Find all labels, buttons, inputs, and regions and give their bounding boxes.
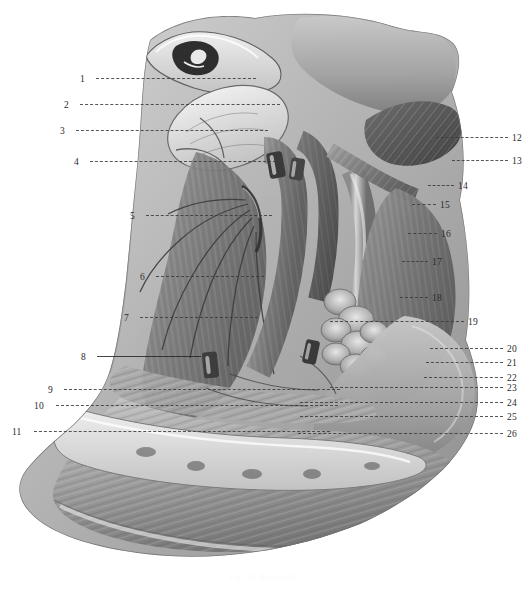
leader-line-15 bbox=[412, 204, 436, 205]
leader-line-8 bbox=[97, 356, 201, 357]
leader-line-10 bbox=[56, 405, 338, 406]
label-number-26: 26 bbox=[507, 429, 517, 439]
leader-line-5 bbox=[146, 215, 272, 216]
label-number-18: 18 bbox=[432, 293, 442, 303]
label-number-7: 7 bbox=[124, 313, 129, 323]
label-number-1: 1 bbox=[80, 74, 85, 84]
label-number-15: 15 bbox=[440, 200, 450, 210]
label-number-4: 4 bbox=[74, 157, 79, 167]
label-number-9: 9 bbox=[48, 385, 53, 395]
label-number-23: 23 bbox=[507, 383, 517, 393]
leader-line-3 bbox=[76, 130, 268, 131]
leader-line-23 bbox=[330, 387, 503, 388]
label-number-21: 21 bbox=[507, 358, 517, 368]
leader-line-25 bbox=[300, 416, 503, 417]
plate-caption: Fig. 72. Regio colli bbox=[0, 573, 529, 582]
leader-line-21 bbox=[426, 362, 503, 363]
label-number-25: 25 bbox=[507, 412, 517, 422]
leader-line-6 bbox=[156, 276, 264, 277]
leader-line-12 bbox=[436, 137, 508, 138]
label-number-11: 11 bbox=[12, 427, 22, 437]
leader-line-16 bbox=[408, 233, 437, 234]
leader-line-11 bbox=[34, 431, 330, 432]
label-number-20: 20 bbox=[507, 344, 517, 354]
leader-line-7 bbox=[140, 317, 258, 318]
leader-line-14 bbox=[428, 185, 454, 186]
label-number-17: 17 bbox=[432, 257, 442, 267]
label-number-14: 14 bbox=[458, 181, 468, 191]
label-number-16: 16 bbox=[441, 229, 451, 239]
label-number-8: 8 bbox=[81, 352, 86, 362]
label-number-6: 6 bbox=[140, 272, 145, 282]
leader-line-20 bbox=[430, 348, 503, 349]
leader-line-13 bbox=[452, 160, 508, 161]
leader-line-4 bbox=[90, 161, 276, 162]
leader-line-19 bbox=[330, 321, 464, 322]
label-number-10: 10 bbox=[34, 401, 44, 411]
leader-line-18 bbox=[400, 297, 428, 298]
anatomical-plate: 1234567891011 12131415161718192021222324… bbox=[0, 0, 529, 589]
leader-line-1 bbox=[96, 78, 256, 79]
label-number-2: 2 bbox=[64, 100, 69, 110]
illustration-body bbox=[19, 14, 478, 557]
leader-line-17 bbox=[402, 261, 428, 262]
leader-line-22 bbox=[424, 377, 503, 378]
label-number-19: 19 bbox=[468, 317, 478, 327]
label-number-5: 5 bbox=[130, 211, 135, 221]
leader-line-2 bbox=[80, 104, 280, 105]
anatomy-illustration bbox=[0, 0, 529, 589]
leader-line-24 bbox=[300, 402, 503, 403]
label-number-3: 3 bbox=[60, 126, 65, 136]
leader-line-26 bbox=[298, 433, 503, 434]
label-number-24: 24 bbox=[507, 398, 517, 408]
leader-line-9 bbox=[64, 389, 340, 390]
label-number-12: 12 bbox=[512, 133, 522, 143]
label-number-13: 13 bbox=[512, 156, 522, 166]
label-number-22: 22 bbox=[507, 373, 517, 383]
